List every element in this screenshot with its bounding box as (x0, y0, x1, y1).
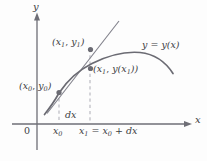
tangent-line-diagram: y x 0 (x1, y1) (x1, y(x1)) (x0, y0) y = … (0, 0, 207, 161)
label-curve-equation: y = y(x) (142, 40, 180, 50)
label-point-x1-y1: (x1, y1) (52, 37, 84, 47)
x-axis-label: x (195, 115, 201, 125)
point-marker-x1-y1 (88, 47, 93, 52)
point-marker-x0-y0 (56, 90, 61, 95)
y-axis-label: y (33, 2, 39, 12)
origin-label: 0 (24, 126, 30, 136)
label-point-x1-yx1: (x1, y(x1)) (93, 64, 138, 74)
function-curve (45, 52, 174, 114)
label-dx: dx (65, 110, 76, 120)
tick-label-x0: x0 (53, 126, 62, 136)
tick-label-x1: x1 = x0 + dx (79, 126, 137, 136)
label-point-x0-y0: (x0, y0) (19, 81, 51, 91)
